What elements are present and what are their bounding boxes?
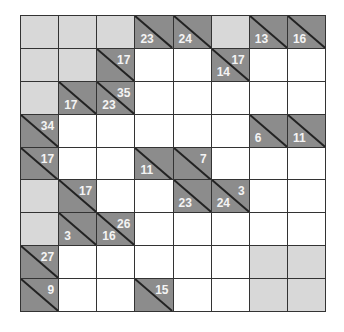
clue-cell: 23 [174, 180, 211, 212]
entry-cell[interactable] [212, 82, 249, 114]
down-clue: 24 [217, 197, 230, 209]
blocked-cell [21, 180, 58, 212]
blocked-cell [288, 246, 325, 278]
entry-cell[interactable] [97, 246, 134, 278]
clue-cell: 3523 [97, 82, 134, 114]
down-clue: 11 [140, 164, 153, 176]
across-clue: 35 [117, 87, 130, 99]
entry-cell[interactable] [212, 213, 249, 245]
entry-cell[interactable] [288, 49, 325, 81]
blocked-cell [59, 16, 96, 48]
across-clue: 3 [238, 185, 245, 197]
clue-cell: 34 [21, 115, 58, 147]
entry-cell[interactable] [250, 213, 287, 245]
blocked-cell [21, 16, 58, 48]
entry-cell[interactable] [250, 82, 287, 114]
down-clue: 24 [179, 33, 192, 45]
entry-cell[interactable] [212, 148, 249, 180]
blocked-cell [250, 279, 287, 311]
across-clue: 27 [41, 251, 54, 263]
across-clue: 7 [200, 153, 207, 165]
across-clue: 34 [41, 120, 54, 132]
clue-cell: 17 [21, 148, 58, 180]
down-clue: 6 [255, 132, 262, 144]
entry-cell[interactable] [59, 279, 96, 311]
blocked-cell [21, 82, 58, 114]
down-clue: 3 [64, 230, 71, 242]
down-clue: 16 [102, 230, 115, 242]
clue-cell: 17 [59, 180, 96, 212]
entry-cell[interactable] [135, 82, 172, 114]
across-clue: 17 [79, 185, 92, 197]
blocked-cell [250, 246, 287, 278]
clue-cell: 11 [135, 148, 172, 180]
kakuro-board: 2324131617171417352334611171171723324326… [20, 15, 326, 312]
entry-cell[interactable] [212, 279, 249, 311]
entry-cell[interactable] [135, 180, 172, 212]
entry-cell[interactable] [288, 213, 325, 245]
entry-cell[interactable] [288, 180, 325, 212]
entry-cell[interactable] [135, 213, 172, 245]
entry-cell[interactable] [288, 148, 325, 180]
clue-cell: 2616 [97, 213, 134, 245]
entry-cell[interactable] [174, 115, 211, 147]
entry-cell[interactable] [250, 49, 287, 81]
down-clue: 13 [255, 33, 268, 45]
across-clue: 26 [117, 218, 130, 230]
clue-cell: 3 [59, 213, 96, 245]
entry-cell[interactable] [97, 148, 134, 180]
entry-cell[interactable] [135, 115, 172, 147]
entry-cell[interactable] [59, 148, 96, 180]
clue-cell: 17 [59, 82, 96, 114]
down-clue: 23 [140, 33, 153, 45]
clue-cell: 6 [250, 115, 287, 147]
clue-cell: 7 [174, 148, 211, 180]
across-clue: 15 [155, 284, 168, 296]
entry-cell[interactable] [174, 213, 211, 245]
entry-cell[interactable] [212, 246, 249, 278]
blocked-cell [97, 16, 134, 48]
entry-cell[interactable] [135, 246, 172, 278]
down-clue: 17 [64, 99, 77, 111]
blocked-cell [212, 16, 249, 48]
down-clue: 23 [179, 197, 192, 209]
clue-cell: 9 [21, 279, 58, 311]
entry-cell[interactable] [288, 82, 325, 114]
entry-cell[interactable] [174, 49, 211, 81]
entry-cell[interactable] [97, 279, 134, 311]
entry-cell[interactable] [59, 246, 96, 278]
entry-cell[interactable] [212, 115, 249, 147]
clue-cell: 1714 [212, 49, 249, 81]
across-clue: 17 [117, 54, 130, 66]
clue-cell: 27 [21, 246, 58, 278]
entry-cell[interactable] [59, 115, 96, 147]
clue-cell: 24 [174, 16, 211, 48]
clue-cell: 15 [135, 279, 172, 311]
across-clue: 17 [231, 54, 244, 66]
down-clue: 23 [102, 99, 115, 111]
entry-cell[interactable] [250, 148, 287, 180]
clue-cell: 23 [135, 16, 172, 48]
clue-cell: 324 [212, 180, 249, 212]
entry-cell[interactable] [174, 279, 211, 311]
down-clue: 11 [293, 132, 306, 144]
entry-cell[interactable] [97, 180, 134, 212]
clue-cell: 17 [97, 49, 134, 81]
across-clue: 9 [47, 284, 54, 296]
down-clue: 16 [293, 33, 306, 45]
across-clue: 17 [41, 153, 54, 165]
down-clue: 14 [217, 66, 230, 78]
clue-cell: 16 [288, 16, 325, 48]
entry-cell[interactable] [174, 246, 211, 278]
blocked-cell [21, 49, 58, 81]
blocked-cell [21, 213, 58, 245]
entry-cell[interactable] [174, 82, 211, 114]
entry-cell[interactable] [135, 49, 172, 81]
clue-cell: 13 [250, 16, 287, 48]
clue-cell: 11 [288, 115, 325, 147]
blocked-cell [59, 49, 96, 81]
entry-cell[interactable] [97, 115, 134, 147]
entry-cell[interactable] [250, 180, 287, 212]
blocked-cell [288, 279, 325, 311]
